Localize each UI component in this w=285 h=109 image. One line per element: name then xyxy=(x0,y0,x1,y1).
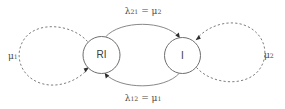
state-transition-diagram: RI I λ21 = μ2 λ12 = μ1 μ1 μ2 xyxy=(0,0,285,109)
transition-bottom-mu-subscript: 1 xyxy=(157,95,161,102)
transition-top-lambda-subscript: 21 xyxy=(130,8,138,15)
transition-bottom-lambda-subscript: 12 xyxy=(130,95,138,102)
self-loop-left-mu-subscript: 1 xyxy=(14,53,18,60)
transition-top-path xyxy=(106,24,180,37)
transition-bottom-equals: = xyxy=(138,93,151,103)
transition-top-mu-subscript: 2 xyxy=(157,8,161,15)
diagram-canvas: RI I λ21 = μ2 λ12 = μ1 μ1 μ2 xyxy=(0,0,285,109)
self-loop-right-label: μ2 xyxy=(264,50,274,60)
transition-top-label: λ21 = μ2 xyxy=(125,6,162,16)
transition-bottom-path xyxy=(105,73,180,86)
transition-top-equals: = xyxy=(138,6,151,16)
transition-bottom-label: λ12 = μ1 xyxy=(125,93,162,103)
self-loop-right-mu-subscript: 2 xyxy=(270,52,274,59)
node-I-label: I xyxy=(181,50,184,61)
self-loop-left-path xyxy=(19,27,88,85)
self-loop-left-label: μ1 xyxy=(8,51,18,61)
self-loop-right-path xyxy=(196,23,265,82)
transition-bottom-arrowhead-icon xyxy=(105,73,110,79)
node-RI-label: RI xyxy=(97,49,107,60)
